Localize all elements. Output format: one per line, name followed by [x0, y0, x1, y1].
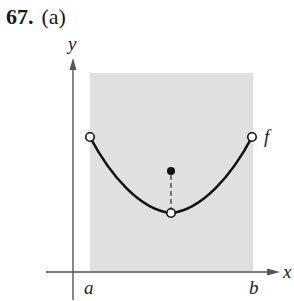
x-axis-arrow-icon — [267, 269, 280, 276]
x-axis-label: x — [282, 261, 292, 282]
isolated-filled-point — [167, 167, 175, 175]
interval-right-label: b — [249, 277, 259, 298]
y-axis-label: y — [66, 33, 77, 54]
interval-left-label: a — [84, 277, 94, 298]
y-axis-arrow-icon — [70, 58, 77, 70]
left-open-endpoint — [86, 133, 94, 141]
right-open-endpoint — [248, 133, 256, 141]
function-diagram: y x a b f — [0, 0, 294, 301]
minimum-hole — [167, 209, 175, 217]
function-label: f — [264, 126, 272, 147]
